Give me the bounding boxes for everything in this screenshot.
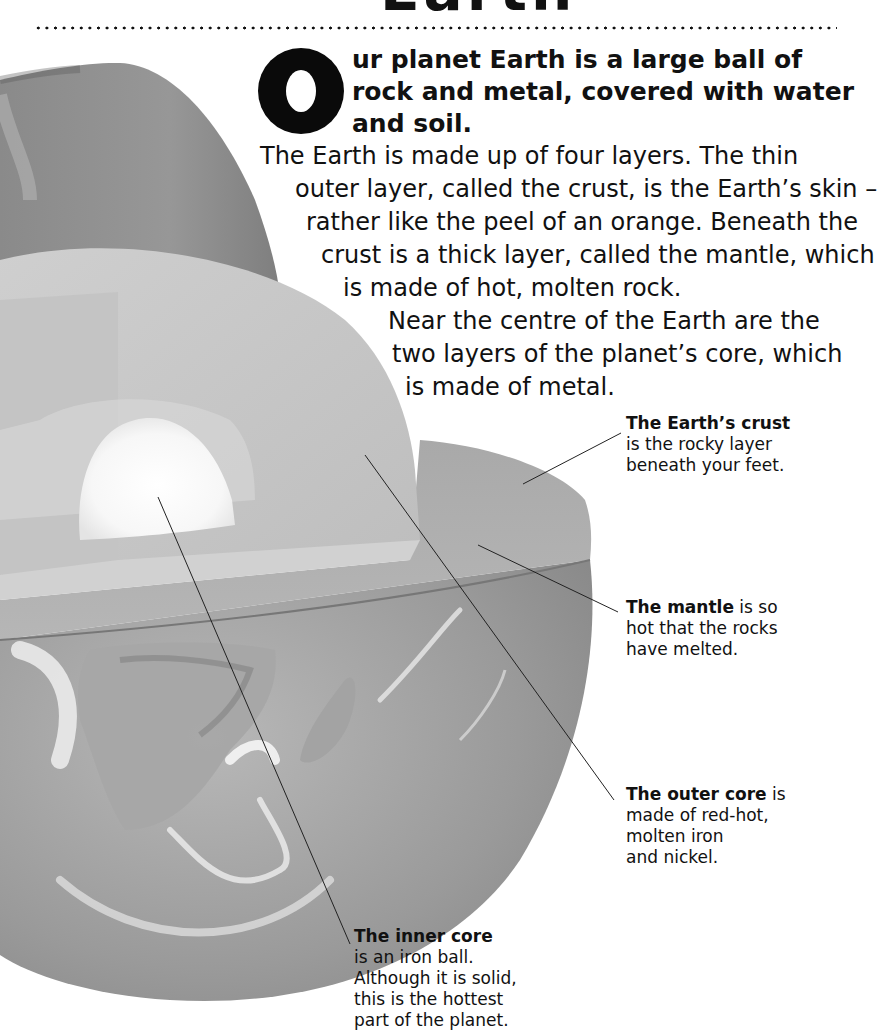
intro-lead: ur planet Earth is a large ball of rock … <box>352 44 832 140</box>
label-inner-core-title: The inner core <box>354 926 517 947</box>
body-line: crust is a thick layer, called the mantl… <box>321 239 875 272</box>
label-mantle-title: The mantle <box>626 597 734 617</box>
label-inner-core-text: this is the hottest <box>354 989 517 1010</box>
label-outer-core-text: and nickel. <box>626 847 786 868</box>
label-mantle: The mantle is so hot that the rocks have… <box>626 597 778 660</box>
label-inner-core-text: part of the planet. <box>354 1010 517 1031</box>
body-line: is made of hot, molten rock. <box>343 272 681 305</box>
label-mantle-text: have melted. <box>626 639 778 660</box>
label-inner-core-text: Although it is solid, <box>354 968 517 989</box>
label-crust-text: is the rocky layer <box>626 434 790 455</box>
label-crust: The Earth’s crust is the rocky layer ben… <box>626 413 790 476</box>
label-outer-core-suffix: is <box>767 784 786 804</box>
label-inner-core-text: is an iron ball. <box>354 947 517 968</box>
label-crust-title: The Earth’s crust <box>626 413 790 434</box>
label-mantle-text: hot that the rocks <box>626 618 778 639</box>
lead-line: rock and metal, covered with water <box>352 76 832 108</box>
lead-line: and soil. <box>352 108 832 140</box>
leader-crust <box>523 433 621 484</box>
label-mantle-suffix: is so <box>734 597 778 617</box>
body-line: outer layer, called the crust, is the Ea… <box>295 173 877 206</box>
label-outer-core: The outer core is made of red-hot, molte… <box>626 784 786 868</box>
body-line: The Earth is made up of four layers. The… <box>260 140 798 173</box>
label-inner-core: The inner core is an iron ball. Although… <box>354 926 517 1031</box>
body-line: two layers of the planet’s core, which <box>392 338 842 371</box>
label-outer-core-title: The outer core <box>626 784 767 804</box>
body-line: rather like the peel of an orange. Benea… <box>306 206 858 239</box>
label-outer-core-text: made of red-hot, <box>626 805 786 826</box>
lead-line: ur planet Earth is a large ball of <box>352 44 832 76</box>
body-line: Near the centre of the Earth are the <box>388 305 820 338</box>
label-outer-core-text: molten iron <box>626 826 786 847</box>
label-crust-text: beneath your feet. <box>626 455 790 476</box>
body-line: is made of metal. <box>405 371 615 404</box>
drop-cap-o <box>258 48 344 134</box>
